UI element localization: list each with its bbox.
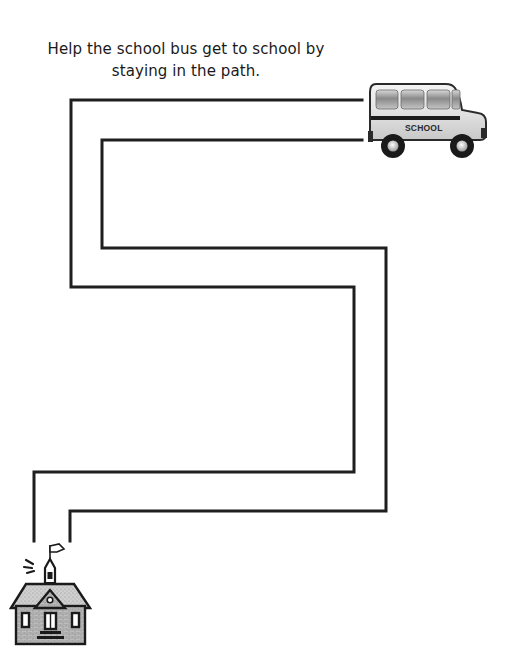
bus-rear-wheel bbox=[381, 134, 405, 158]
bus-label: SCHOOL bbox=[405, 123, 443, 133]
maze-inner-wall bbox=[70, 140, 386, 541]
maze-canvas[interactable]: SCHOOL bbox=[0, 0, 509, 667]
maze-outer-wall bbox=[34, 100, 362, 541]
maze-path bbox=[34, 100, 386, 541]
schoolhouse-icon bbox=[11, 544, 90, 644]
school-bus-icon: SCHOOL bbox=[368, 84, 487, 158]
bus-front-wheel bbox=[450, 134, 474, 158]
